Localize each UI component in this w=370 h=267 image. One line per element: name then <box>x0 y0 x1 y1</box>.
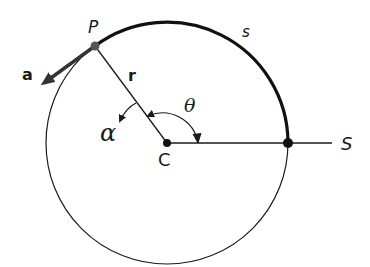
acceleration-vector <box>44 46 95 83</box>
label-alpha: α <box>100 119 116 147</box>
label-r: r <box>128 66 136 85</box>
label-s-arc: s <box>242 23 250 41</box>
label-theta: θ <box>184 94 196 116</box>
center-point <box>163 139 171 147</box>
angular-acceleration-arrow <box>120 103 136 121</box>
label-s-ref: S <box>341 133 352 154</box>
label-a: a <box>22 65 33 84</box>
theta-arc-start-arrow <box>193 133 201 143</box>
arc-s <box>95 22 288 143</box>
label-c: C <box>158 149 171 170</box>
label-p: P <box>88 17 99 37</box>
circular-motion-diagram: P s a r α θ C S <box>0 0 370 267</box>
point-p <box>91 42 100 51</box>
reference-point <box>283 138 293 148</box>
